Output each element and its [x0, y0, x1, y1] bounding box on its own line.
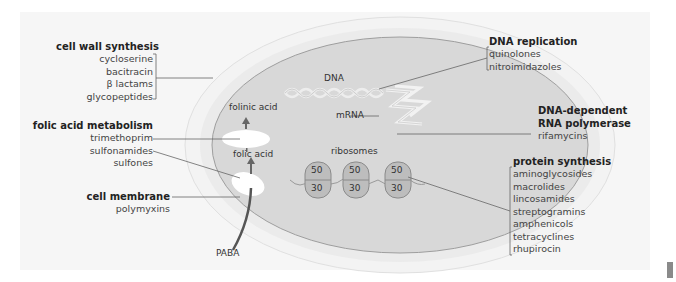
- group-cell-wall: cell wall synthesis cycloserine bacitrac…: [56, 40, 153, 103]
- group-title: cell membrane: [70, 190, 170, 203]
- group-rna-polymerase: DNA-dependent RNA polymerase rifamycins: [538, 104, 631, 143]
- drug-item: rifamycins: [538, 130, 631, 143]
- group-title-line1: DNA-dependent: [538, 104, 631, 117]
- drug-item: polymyxins: [70, 203, 170, 216]
- folic-acid-label: folic acid: [233, 148, 273, 161]
- drug-item: quinolones: [489, 48, 578, 61]
- paba-label: PABA: [216, 247, 239, 260]
- drug-item: rhupirocin: [513, 243, 611, 256]
- group-protein-synthesis: protein synthesis aminoglycosides macrol…: [513, 155, 611, 256]
- scrollbar-marker: [667, 262, 673, 278]
- dna-label: DNA: [324, 72, 344, 85]
- drug-item: sulfones: [30, 157, 153, 170]
- ribosome-1-small: 30: [311, 182, 322, 195]
- ribosomes-label: ribosomes: [331, 145, 378, 158]
- drug-item: lincosamides: [513, 193, 611, 206]
- drug-item: nitroimidazoles: [489, 61, 578, 74]
- drug-item: tetracyclines: [513, 231, 611, 244]
- drug-item: trimethoprim: [30, 132, 153, 145]
- drug-item: macrolides: [513, 181, 611, 194]
- ribosome-3-large: 50: [391, 164, 402, 177]
- group-title: DNA replication: [489, 35, 578, 48]
- drug-item: β lactams: [56, 78, 153, 91]
- ribosome-1-large: 50: [311, 164, 322, 177]
- drug-item: cycloserine: [56, 53, 153, 66]
- group-title: protein synthesis: [513, 155, 611, 168]
- drug-item: bacitracin: [56, 66, 153, 79]
- group-title: cell wall synthesis: [56, 40, 153, 53]
- ribosome-2-small: 30: [349, 182, 360, 195]
- drug-item: amphenicols: [513, 218, 611, 231]
- group-title-line2: RNA polymerase: [538, 117, 631, 130]
- drug-item: sulfonamides: [30, 145, 153, 158]
- group-dna-replication: DNA replication quinolones nitroimidazol…: [489, 35, 578, 73]
- mrna-label: mRNA: [336, 109, 364, 122]
- folinic-acid-label: folinic acid: [229, 101, 277, 114]
- group-title: folic acid metabolism: [30, 119, 153, 132]
- drug-item: glycopeptides: [56, 91, 153, 104]
- drug-item: aminoglycosides: [513, 168, 611, 181]
- group-folic-acid: folic acid metabolism trimethoprim sulfo…: [30, 119, 153, 170]
- drug-item: streptogramins: [513, 206, 611, 219]
- ribosome-2-large: 50: [349, 164, 360, 177]
- ribosome-3-small: 30: [391, 182, 402, 195]
- group-cell-membrane: cell membrane polymyxins: [70, 190, 170, 216]
